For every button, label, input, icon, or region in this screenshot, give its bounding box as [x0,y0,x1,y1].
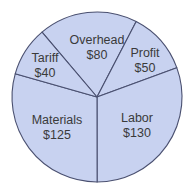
label-tariff-name: Tariff [32,51,59,65]
label-labor-value: $130 [123,126,151,140]
label-tariff-value: $40 [35,66,56,80]
label-overhead-value: $80 [87,48,108,62]
pie-chart: Overhead $80 Profit $50 Tariff $40 Mater… [0,0,190,192]
slice-label-labor: Labor $130 [121,111,153,140]
label-overhead-name: Overhead [70,33,125,47]
label-profit-value: $50 [135,61,156,75]
label-materials-value: $125 [43,128,71,142]
label-labor-name: Labor [121,111,153,125]
label-profit-name: Profit [130,46,160,60]
label-materials-name: Materials [32,113,83,127]
slice-label-tariff: Tariff $40 [32,51,59,80]
